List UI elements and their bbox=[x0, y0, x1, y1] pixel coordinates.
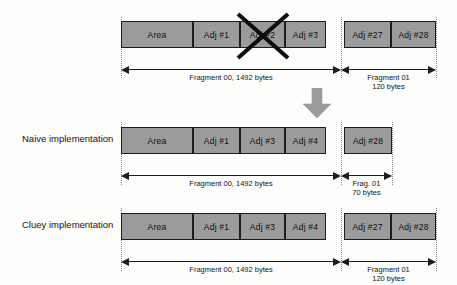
row3-frag0-caption: Fragment 00, 1492 bytes bbox=[121, 265, 341, 275]
row3-adj3-label: Adj #3 bbox=[250, 222, 275, 232]
guide-right-row3 bbox=[436, 208, 437, 271]
row2-area-label: Area bbox=[148, 136, 167, 146]
row1-adj27-label: Adj #27 bbox=[352, 30, 382, 40]
row2-adj3-cell: Adj #3 bbox=[240, 127, 285, 154]
row2-frag0-caption: Fragment 00, 1492 bytes bbox=[121, 179, 341, 189]
row2-adj3-label: Adj #3 bbox=[250, 136, 275, 146]
row3-adj3-cell: Adj #3 bbox=[240, 213, 285, 240]
row3-adj1-cell: Adj #1 bbox=[193, 213, 240, 240]
row2-frag1-caption-line2: 70 bytes bbox=[341, 188, 392, 198]
row3-frag1-measure-line bbox=[343, 261, 435, 262]
row1-adj1-label: Adj #1 bbox=[204, 30, 229, 40]
row1-frag1-caption-line2: 120 bytes bbox=[341, 82, 436, 92]
row1-adj28-label: Adj #28 bbox=[398, 30, 428, 40]
row1-adj3-label: Adj #3 bbox=[293, 30, 318, 40]
down-arrow-svg bbox=[302, 88, 332, 119]
row1-frag1-measure-line bbox=[343, 69, 435, 70]
row1-frag0-measure-line bbox=[123, 69, 339, 70]
row1-adj27-cell: Adj #27 bbox=[344, 21, 391, 48]
guide-right-row2 bbox=[392, 122, 393, 185]
row2-frag0-measure-line bbox=[123, 175, 339, 176]
row1-area-label: Area bbox=[148, 30, 167, 40]
row2-adj1-label: Adj #1 bbox=[204, 136, 229, 146]
row3-area-cell: Area bbox=[121, 213, 193, 240]
cross-svg bbox=[236, 12, 290, 60]
row3-adj28-label: Adj #28 bbox=[398, 222, 428, 232]
row1-adj1-cell: Adj #1 bbox=[193, 21, 240, 48]
dropped-adjacency-cross-icon bbox=[236, 12, 290, 60]
row3-adj27-cell: Adj #27 bbox=[344, 213, 391, 240]
row1-adj3-cell: Adj #3 bbox=[285, 21, 326, 48]
row3-adj4-label: Adj #4 bbox=[293, 222, 318, 232]
row2-area-cell: Area bbox=[121, 127, 193, 154]
row2-adj28-label: Adj #28 bbox=[353, 136, 383, 146]
row3-area-label: Area bbox=[148, 222, 167, 232]
row2-adj28-cell: Adj #28 bbox=[344, 127, 392, 154]
row3-frag0-measure-line bbox=[123, 261, 339, 262]
row2-adj1-cell: Adj #1 bbox=[193, 127, 240, 154]
guide-right-row1 bbox=[436, 17, 437, 78]
row3-adj4-cell: Adj #4 bbox=[285, 213, 326, 240]
row3-label: Cluey implementation bbox=[22, 219, 113, 230]
row1-frag0-caption: Fragment 00, 1492 bytes bbox=[121, 73, 341, 83]
row2-label: Naive implementation bbox=[22, 133, 113, 144]
transition-down-arrow-icon bbox=[302, 88, 332, 119]
row3-adj1-label: Adj #1 bbox=[204, 222, 229, 232]
row2-adj4-cell: Adj #4 bbox=[285, 127, 326, 154]
row1-area-cell: Area bbox=[121, 21, 193, 48]
row1-adj28-cell: Adj #28 bbox=[391, 21, 436, 48]
row3-adj27-label: Adj #27 bbox=[352, 222, 382, 232]
fragmentation-diagram: Area Adj #1 Adj #2 Adj #3 Adj #27 Adj #2… bbox=[0, 0, 457, 285]
row3-frag1-caption-line2: 120 bytes bbox=[341, 274, 436, 284]
row2-adj4-label: Adj #4 bbox=[293, 136, 318, 146]
row3-adj28-cell: Adj #28 bbox=[391, 213, 436, 240]
